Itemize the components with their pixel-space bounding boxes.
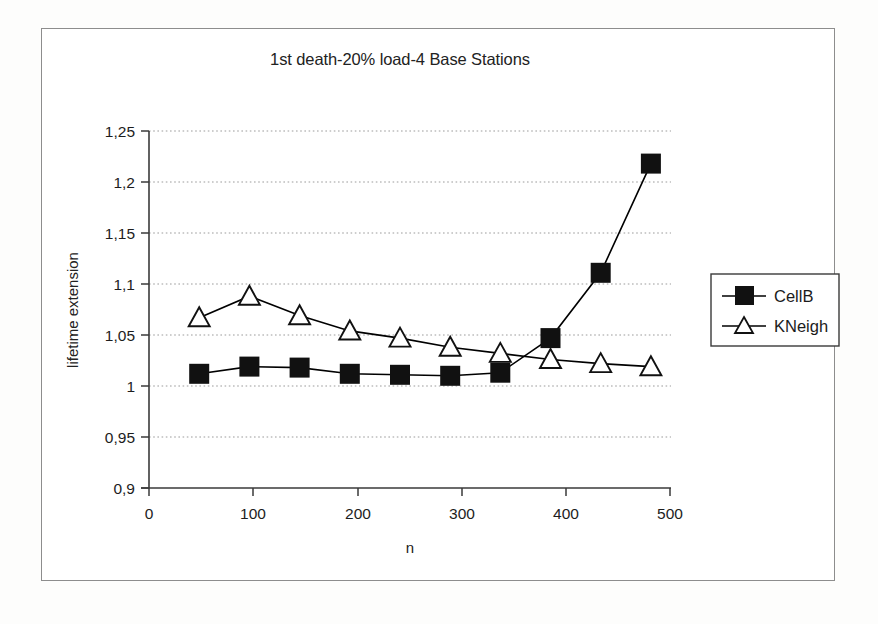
y-tick-label-1.2: 1,2 bbox=[113, 174, 135, 191]
plot-area: 1,25 1,2 1,15 1,1 1,05 1 0,95 0,9 0 100 … bbox=[0, 0, 878, 624]
y-axis-title: lifetime extension bbox=[64, 252, 81, 368]
data-point-square bbox=[541, 328, 561, 348]
series-cellb bbox=[189, 154, 661, 386]
series-kneigh bbox=[189, 286, 662, 375]
x-axis-title: n bbox=[406, 539, 414, 556]
y-tick-label-1: 1 bbox=[126, 378, 135, 395]
y-tick-label-1.1: 1,1 bbox=[113, 276, 135, 293]
y-tick-label-1.25: 1,25 bbox=[105, 123, 135, 140]
x-tick-label-200: 200 bbox=[345, 505, 371, 522]
legend: CellB KNeigh bbox=[711, 274, 839, 346]
series-line bbox=[199, 296, 651, 366]
data-point-square bbox=[390, 365, 410, 385]
data-point-square bbox=[290, 358, 310, 378]
data-point-square bbox=[591, 263, 611, 283]
legend-cellb-label: CellB bbox=[774, 287, 813, 305]
legend-box bbox=[711, 274, 839, 346]
series-line bbox=[199, 164, 651, 376]
data-point-triangle bbox=[339, 321, 360, 340]
data-point-square bbox=[239, 357, 259, 377]
x-tick-label-100: 100 bbox=[240, 505, 266, 522]
y-tick-marks bbox=[141, 131, 149, 488]
data-point-triangle bbox=[239, 286, 260, 305]
y-tick-label-1.15: 1,15 bbox=[105, 225, 135, 242]
data-point-square bbox=[490, 363, 510, 383]
data-point-square bbox=[340, 364, 360, 384]
data-point-triangle bbox=[289, 305, 310, 324]
legend-kneigh-label: KNeigh bbox=[774, 317, 828, 335]
x-tick-label-500: 500 bbox=[657, 505, 683, 522]
series-layer bbox=[189, 154, 662, 386]
y-tick-label-0.95: 0,95 bbox=[105, 429, 135, 446]
x-tick-label-300: 300 bbox=[449, 505, 475, 522]
y-tick-label-0.9: 0,9 bbox=[113, 480, 135, 497]
data-point-square bbox=[641, 154, 661, 174]
x-tick-marks bbox=[149, 488, 670, 496]
data-point-square bbox=[189, 364, 209, 384]
y-tick-label-1.05: 1,05 bbox=[105, 327, 135, 344]
data-point-triangle bbox=[189, 307, 210, 326]
chart-figure: 1st death-20% load-4 Base Stations bbox=[0, 0, 878, 624]
legend-cellb-marker bbox=[735, 286, 754, 305]
x-tick-label-0: 0 bbox=[145, 505, 154, 522]
x-tick-label-400: 400 bbox=[553, 505, 579, 522]
data-point-square bbox=[440, 366, 460, 386]
